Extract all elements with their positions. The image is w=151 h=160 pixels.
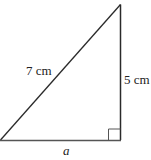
hypotenuse-label: 7 cm bbox=[26, 63, 52, 78]
vertical-leg-label: 5 cm bbox=[124, 72, 150, 87]
right-triangle-diagram: 7 cm 5 cm a bbox=[0, 0, 151, 160]
hypotenuse bbox=[1, 5, 121, 141]
horizontal-leg-label: a bbox=[63, 143, 70, 158]
right-angle-marker bbox=[109, 129, 121, 140]
